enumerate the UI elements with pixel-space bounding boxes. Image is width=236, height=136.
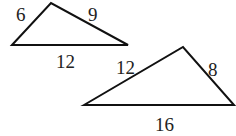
large-right-side-label: 8 <box>208 60 218 79</box>
small-triangle <box>12 3 128 45</box>
large-left-side-label: 12 <box>116 58 135 77</box>
small-base-label: 12 <box>56 52 75 71</box>
large-base-label: 16 <box>155 115 174 134</box>
small-right-side-label: 9 <box>88 5 98 24</box>
small-left-side-label: 6 <box>16 5 26 24</box>
diagram-canvas: 6 9 12 12 8 16 <box>0 0 236 136</box>
